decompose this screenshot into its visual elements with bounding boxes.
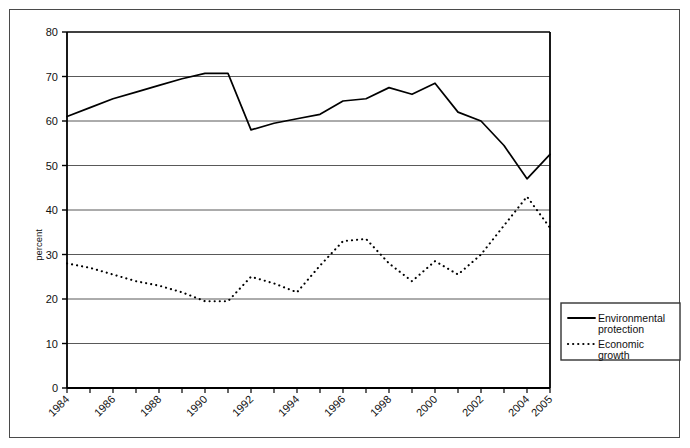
x-tick-label-2005: 2005 [529, 393, 555, 419]
x-tick-label-1998: 1998 [368, 393, 394, 419]
x-tick-label-2004: 2004 [506, 393, 532, 419]
x-tick-label-1988: 1988 [138, 393, 164, 419]
x-tick-label-1994: 1994 [276, 393, 302, 419]
line-chart: 01020304050607080percent1984198619881990… [0, 0, 690, 448]
y-axis-ticks: 01020304050607080 [46, 26, 67, 394]
legend-label-environmental-protection-line2: protection [598, 323, 644, 335]
x-axis-ticks: 1984198619881990199219941996199820002002… [46, 388, 555, 419]
x-tick-label-1984: 1984 [46, 393, 72, 419]
x-tick-label-1990: 1990 [184, 393, 210, 419]
y-tick-label-40: 40 [46, 204, 58, 216]
y-tick-label-70: 70 [46, 71, 58, 83]
x-tick-label-1992: 1992 [230, 393, 256, 419]
y-tick-label-0: 0 [52, 382, 58, 394]
y-tick-label-60: 60 [46, 115, 58, 127]
x-tick-label-2000: 2000 [414, 393, 440, 419]
legend: EnvironmentalprotectionEconomicgrowth [561, 303, 680, 361]
chart-page: 01020304050607080percent1984198619881990… [0, 0, 690, 448]
y-tick-label-10: 10 [46, 338, 58, 350]
x-tick-label-1986: 1986 [92, 393, 118, 419]
x-tick-label-2002: 2002 [460, 393, 486, 419]
y-tick-label-80: 80 [46, 26, 58, 38]
y-tick-label-20: 20 [46, 293, 58, 305]
x-tick-label-1996: 1996 [322, 393, 348, 419]
y-axis-title: percent [33, 229, 44, 261]
legend-label-economic-growth-line2: growth [598, 349, 630, 361]
y-tick-label-30: 30 [46, 249, 58, 261]
y-tick-label-50: 50 [46, 160, 58, 172]
